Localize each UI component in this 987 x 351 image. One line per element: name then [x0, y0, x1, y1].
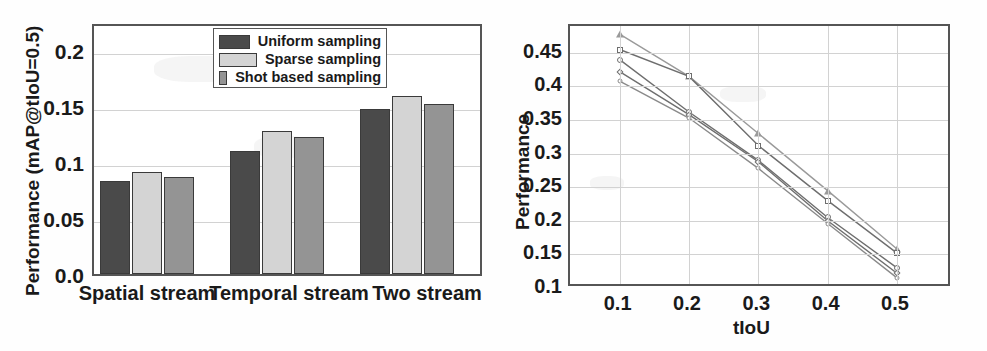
bar-chart-panel: Performance (mAP@tIoU=0.5) 0.00.050.10.1…	[0, 0, 494, 351]
y-tick-label: 0.05	[43, 208, 84, 232]
legend-item-uniform-sampling[interactable]: Uniform sampling	[219, 33, 381, 50]
bar-uniform-sampling	[230, 151, 260, 274]
legend-item-sparse-sampling[interactable]: Sparse sampling	[219, 51, 381, 68]
line-chart-panel: Performance 0.10.150.20.250.30.350.40.45…	[494, 0, 987, 351]
bar-uniform-sampling	[100, 181, 130, 274]
bar-shot-based-sampling	[294, 137, 324, 274]
x-tick-label: Spatial stream	[79, 282, 216, 305]
y-tick-label: 0.1	[55, 152, 84, 176]
x-tick-label: 0.4	[812, 292, 840, 315]
bar-sparse-sampling	[132, 172, 162, 274]
legend-swatch-icon	[219, 53, 257, 67]
y-tick-label: 0.15	[43, 96, 84, 120]
y-tick-label: 0.1	[534, 275, 562, 298]
vertical-gridline	[689, 26, 690, 284]
bar-chart-legend[interactable]: Uniform sampling Sparse sampling Shot ba…	[213, 28, 387, 88]
y-tick-label: 0.3	[534, 140, 562, 163]
line-chart-y-axis-title: Performance	[512, 114, 534, 230]
legend-item-shot-based-sampling[interactable]: Shot based sampling	[219, 69, 381, 86]
figure-two-panel: Performance (mAP@tIoU=0.5) 0.00.050.10.1…	[0, 0, 987, 351]
vertical-gridline	[828, 26, 829, 284]
bar-sparse-sampling	[392, 96, 422, 274]
x-tick-label: 0.3	[742, 292, 770, 315]
x-tick-label: 0.5	[881, 292, 909, 315]
x-tick-label: Two stream	[372, 282, 482, 305]
line-chart-x-axis-title: tIoU	[733, 317, 770, 339]
legend-swatch-icon	[219, 71, 227, 85]
gridline	[94, 110, 480, 111]
y-tick-label: 0.2	[534, 207, 562, 230]
y-tick-label: 0.25	[523, 174, 562, 197]
bar-sparse-sampling	[262, 131, 292, 274]
legend-label: Shot based sampling	[235, 70, 381, 85]
legend-swatch-icon	[219, 35, 250, 49]
bar-shot-based-sampling	[424, 104, 454, 274]
x-tick-label: 0.1	[604, 292, 632, 315]
legend-label: Sparse sampling	[265, 52, 381, 67]
y-tick-label: 0.35	[523, 107, 562, 130]
bar-shot-based-sampling	[164, 177, 194, 274]
y-tick-label: 0.4	[534, 73, 562, 96]
vertical-gridline	[897, 26, 898, 284]
vertical-gridline	[620, 26, 621, 284]
bar-chart-y-axis-title: Performance (mAP@tIoU=0.5)	[22, 26, 44, 296]
y-tick-label: 0.2	[55, 40, 84, 64]
vertical-gridline	[758, 26, 759, 284]
x-tick-label: Temporal stream	[209, 282, 369, 305]
legend-label: Uniform sampling	[258, 34, 381, 49]
y-tick-label: 0.15	[523, 241, 562, 264]
line-chart-plot-area	[568, 24, 950, 286]
x-tick-label: 0.2	[673, 292, 701, 315]
y-tick-label: 0.45	[523, 39, 562, 62]
bar-uniform-sampling	[360, 109, 390, 274]
